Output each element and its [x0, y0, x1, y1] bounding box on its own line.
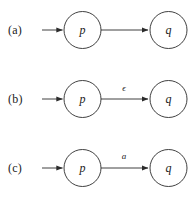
transition-diagram-b: p q ϵ: [0, 69, 195, 129]
diagram-row-a: (a) p q: [0, 0, 195, 60]
state-label-p-a: p: [79, 23, 86, 37]
state-label-q-b: q: [166, 92, 172, 106]
state-label-p-b: p: [79, 92, 86, 106]
transition-diagram-c: p q a: [0, 138, 195, 198]
edge-label-a-symbol: a: [122, 151, 127, 161]
state-label-p-c: p: [79, 161, 86, 175]
transition-diagram-a: p q: [0, 0, 195, 60]
figure-root: (a) p q (b) p: [0, 0, 195, 200]
diagram-row-c: (c) p q a: [0, 138, 195, 198]
state-label-q-a: q: [166, 23, 172, 37]
diagram-row-b: (b) p q ϵ: [0, 69, 195, 129]
edge-label-epsilon: ϵ: [122, 83, 126, 93]
state-label-q-c: q: [166, 161, 172, 175]
